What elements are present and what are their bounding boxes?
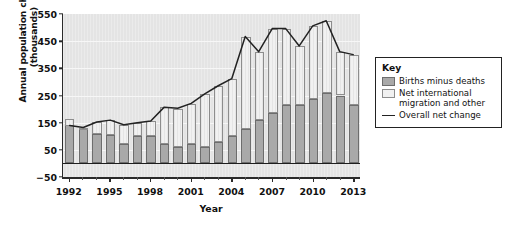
y-axis-tick-label: 250	[11, 90, 63, 101]
x-axis-title: Year	[62, 203, 360, 214]
x-axis-tickmark-major	[109, 177, 110, 182]
x-axis-tick-label: 1998	[137, 186, 163, 197]
plot-inner	[63, 14, 360, 177]
legend-label-overall: Overall net change	[399, 110, 496, 120]
legend-line-marker-icon	[382, 111, 395, 120]
x-axis-tick-label: 1992	[56, 186, 82, 197]
legend-item-overall-net-change: Overall net change	[381, 110, 496, 120]
overall-net-change-polyline	[70, 21, 353, 128]
y-axis-tickmark	[59, 13, 63, 14]
y-axis-tickmark	[59, 122, 63, 123]
legend-swatch-migration-icon	[382, 89, 395, 98]
x-axis-tick-label: 2007	[259, 186, 285, 197]
x-axis-tickmark-major	[231, 177, 232, 182]
x-axis-tickmark-major	[272, 177, 273, 182]
x-axis-tickmark-minor	[340, 177, 341, 180]
y-axis-tickmark	[59, 68, 63, 69]
overall-net-change-line	[63, 14, 360, 176]
y-axis-tick-label: 50	[11, 144, 63, 155]
legend-label-births: Births minus deaths	[399, 76, 496, 86]
plot-area: 55045035025015050−50	[62, 14, 360, 177]
x-axis-tick-label: 2013	[340, 186, 366, 197]
legend-label-migration-line-1: Net international	[399, 88, 472, 98]
legend-label-migration-line-2: migration and other	[399, 98, 496, 108]
x-axis-tickmark-minor	[204, 177, 205, 180]
x-axis-line	[62, 177, 360, 179]
x-axis-tickmark-minor	[286, 177, 287, 180]
x-axis-tickmark-minor	[326, 177, 327, 180]
x-axis-tickmark-minor	[96, 177, 97, 180]
x-axis-tickmark-minor	[164, 177, 165, 180]
x-axis-tick-label: 2001	[178, 186, 204, 197]
x-axis-tickmark-minor	[137, 177, 138, 180]
y-axis-tick-label: 150	[11, 117, 63, 128]
x-axis-tickmark-major	[191, 177, 192, 182]
y-axis-tick-label: 550	[11, 9, 63, 20]
x-axis-tick-label: 2010	[300, 186, 326, 197]
chart-figure: Annual population change (thousands) 550…	[0, 0, 510, 233]
x-axis-tick-label: 2004	[218, 186, 244, 197]
x-axis-tick-label: 1995	[96, 186, 122, 197]
y-axis-tick-label: 350	[11, 63, 63, 74]
x-axis-tickmark-minor	[245, 177, 246, 180]
x-axis-tickmark-minor	[177, 177, 178, 180]
x-axis-tickmark-major	[150, 177, 151, 182]
y-axis-tickmark	[59, 149, 63, 150]
x-axis-tickmark-major	[313, 177, 314, 182]
x-axis-tickmark-minor	[218, 177, 219, 180]
x-axis-tickmark-minor	[299, 177, 300, 180]
legend-item-net-migration: Net international migration and other	[381, 88, 496, 108]
legend-swatch-births-icon	[382, 77, 395, 86]
legend-item-births-minus-deaths: Births minus deaths	[381, 76, 496, 86]
legend: Key Births minus deaths Net internationa…	[375, 57, 502, 128]
x-axis-tickmark-minor	[258, 177, 259, 180]
y-axis-tick-label: −50	[11, 172, 63, 183]
x-axis-tickmark-minor	[123, 177, 124, 180]
y-axis-tickmark	[59, 95, 63, 96]
legend-title: Key	[382, 62, 496, 73]
x-axis-tickmark-major	[353, 177, 354, 182]
x-axis-tickmark-major	[69, 177, 70, 182]
zero-line	[63, 163, 360, 165]
y-axis-tickmark	[59, 40, 63, 41]
x-axis-tickmark-minor	[82, 177, 83, 180]
y-axis-tick-label: 450	[11, 36, 63, 47]
